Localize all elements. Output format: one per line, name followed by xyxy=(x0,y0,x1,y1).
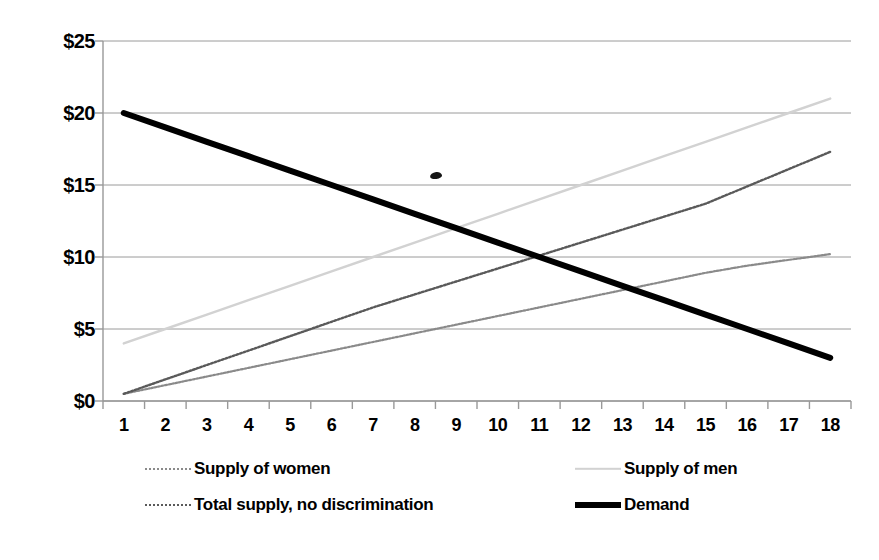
legend-swatch-icon xyxy=(575,498,621,512)
x-axis-tick-label: 18 xyxy=(821,416,840,434)
x-axis-tick-label: 17 xyxy=(779,416,798,434)
x-axis-tick-label: 7 xyxy=(368,416,378,434)
data-series-group xyxy=(124,99,830,394)
x-axis-tick-label: 2 xyxy=(161,416,171,434)
legend-label: Supply of women xyxy=(194,459,330,479)
x-axis-tick-label: 10 xyxy=(488,416,507,434)
x-axis-tick-label: 3 xyxy=(202,416,212,434)
y-axis-tick-label: $5 xyxy=(7,319,95,339)
series-line-supply-of-men xyxy=(124,99,830,344)
y-axis-labels: $0$5$10$15$20$25 xyxy=(0,0,95,560)
legend-label: Demand xyxy=(624,495,689,515)
y-axis-tick-label: $25 xyxy=(7,31,95,51)
x-axis-tick-label: 8 xyxy=(410,416,420,434)
x-axis-tick-label: 16 xyxy=(738,416,757,434)
y-axis-ticks xyxy=(95,41,103,401)
legend-item-demand[interactable]: Demand xyxy=(575,492,689,518)
legend-label: Supply of men xyxy=(624,459,737,479)
legend-item-total-supply-no-discrimination[interactable]: Total supply, no discrimination xyxy=(145,492,433,518)
legend-swatch-icon xyxy=(145,462,191,476)
x-axis-tick-label: 15 xyxy=(696,416,715,434)
x-axis-tick-label: 11 xyxy=(530,416,548,434)
y-axis-tick-label: $0 xyxy=(7,391,95,411)
x-axis-tick-label: 14 xyxy=(654,416,673,434)
series-line-total-supply-no-discrimination xyxy=(124,152,830,394)
y-axis-tick-label: $15 xyxy=(7,175,95,195)
x-axis-tick-label: 1 xyxy=(119,416,129,434)
x-axis-tick-label: 12 xyxy=(571,416,590,434)
x-axis-tick-label: 9 xyxy=(451,416,461,434)
y-axis-tick-label: $20 xyxy=(7,103,95,123)
chart-legend: Supply of women Supply of men Total supp… xyxy=(103,456,851,528)
legend-swatch-icon xyxy=(575,462,621,476)
y-axis-tick-label: $10 xyxy=(7,247,95,267)
x-axis-tick-label: 5 xyxy=(285,416,295,434)
legend-label: Total supply, no discrimination xyxy=(194,495,433,515)
legend-swatch-icon xyxy=(145,498,191,512)
x-axis-tick-label: 4 xyxy=(244,416,254,434)
x-axis-tick-label: 6 xyxy=(327,416,337,434)
legend-item-supply-of-men[interactable]: Supply of men xyxy=(575,456,737,482)
x-axis-tick-label: 13 xyxy=(613,416,632,434)
supply-demand-chart: $0$5$10$15$20$25 12345678910111213141516… xyxy=(0,0,879,560)
x-axis-ticks xyxy=(103,401,851,409)
legend-item-supply-of-women[interactable]: Supply of women xyxy=(145,456,330,482)
